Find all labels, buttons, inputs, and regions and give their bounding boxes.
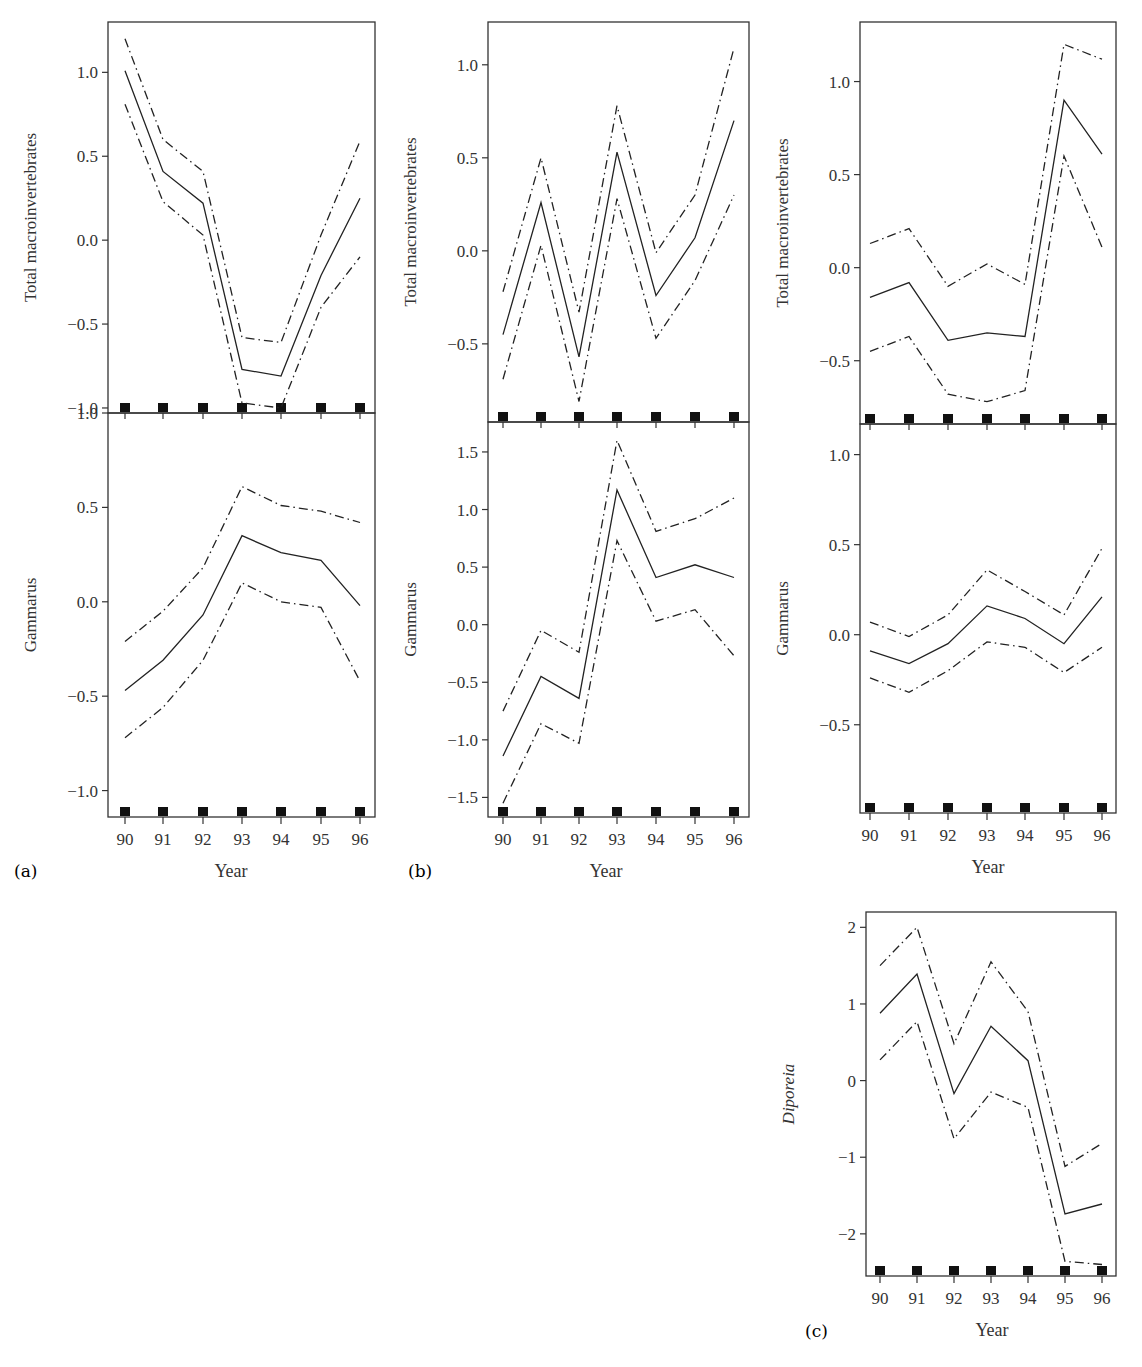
y-axis-label: Gammarus [21,578,40,653]
series-fit [125,71,360,376]
rug-mark [198,807,208,816]
y-axis-label: Total macroinvertebrates [773,138,792,307]
series-lower [870,642,1102,692]
rug-mark [574,412,584,421]
figure-canvas: −1.0−0.50.00.51.0Total macroinvertebrate… [0,0,1142,1367]
y-tick-label: 0.0 [77,231,98,250]
rug-mark [986,1266,996,1275]
panel-label-a: (a) [14,861,37,881]
panel-label-b: (b) [408,861,432,881]
rug-mark [1059,414,1069,423]
y-axis-label: Diporeia [779,1064,798,1126]
x-tick-label: 92 [940,826,957,845]
panel-a-top: −1.0−0.50.00.51.0Total macroinvertebrate… [21,22,375,418]
y-tick-label: 1.0 [457,56,478,75]
plot-frame [866,912,1116,1276]
rug-mark [690,807,700,816]
rug-mark [1097,1266,1107,1275]
x-tick-label: 91 [155,830,172,849]
y-tick-label: 0 [848,1072,857,1091]
rug-mark [949,1266,959,1275]
rug-mark [120,403,130,412]
rug-mark [1020,803,1030,812]
series-fit [503,490,734,756]
y-tick-label: −1.0 [67,782,98,801]
rug-mark [536,412,546,421]
panel-c-top: −0.50.00.51.0Total macroinvertebrates [773,22,1116,424]
rug-mark [1020,414,1030,423]
panel-b-top: −0.50.00.51.0Total macroinvertebrates [401,22,749,422]
y-tick-label: 0.5 [829,166,850,185]
x-tick-label: 92 [946,1289,963,1308]
series-fit [880,974,1102,1214]
x-tick-label: 94 [1020,1289,1038,1308]
y-tick-label: −0.5 [819,716,850,735]
y-tick-label: 0.5 [457,149,478,168]
rug-mark [651,412,661,421]
panel-c-extra: −2−1012Diporeia90919293949596Year [779,912,1116,1340]
rug-mark [729,807,739,816]
y-tick-label: 2 [848,918,857,937]
y-axis-label: Gammarus [773,581,792,656]
series-lower [125,583,360,738]
series-upper [880,927,1102,1166]
y-tick-label: 0.5 [77,498,98,517]
rug-mark [316,403,326,412]
y-tick-label: 1.5 [457,443,478,462]
rug-mark [904,803,914,812]
rug-mark [355,807,365,816]
rug-mark [237,807,247,816]
rug-mark [651,807,661,816]
y-tick-label: 0.0 [457,242,478,261]
x-tick-label: 93 [983,1289,1000,1308]
y-tick-label: 0.5 [829,536,850,555]
rug-mark [120,807,130,816]
y-tick-label: 0.0 [829,626,850,645]
rug-mark [1060,1266,1070,1275]
x-tick-label: 93 [234,830,251,849]
rug-mark [498,807,508,816]
rug-mark [355,403,365,412]
rug-mark [875,1266,885,1275]
rug-mark [1097,414,1107,423]
x-axis-label: Year [975,1320,1008,1340]
series-fit [870,100,1102,340]
rug-mark [982,803,992,812]
panel-a-bottom: −1.0−0.50.00.51.0Gammarus90919293949596Y… [21,404,375,881]
y-tick-label: −0.5 [67,315,98,334]
x-tick-label: 96 [726,830,743,849]
y-tick-label: 1 [848,995,857,1014]
plot-frame [108,22,375,413]
x-axis-label: Year [971,857,1004,877]
rug-mark [1097,803,1107,812]
series-lower [125,104,360,408]
rug-mark [904,414,914,423]
x-tick-label: 91 [909,1289,926,1308]
series-upper [870,548,1102,636]
rug-mark [237,403,247,412]
x-tick-label: 96 [352,830,369,849]
x-tick-label: 90 [495,830,512,849]
y-tick-label: −0.5 [819,352,850,371]
series-fit [870,597,1102,664]
x-tick-label: 96 [1094,1289,1111,1308]
plot-frame [108,413,375,817]
x-tick-label: 92 [195,830,212,849]
rug-mark [1059,803,1069,812]
plot-frame [860,22,1116,424]
series-upper [870,44,1102,286]
rug-mark [943,414,953,423]
x-axis-label: Year [214,861,247,881]
x-tick-label: 96 [1094,826,1111,845]
rug-mark [276,807,286,816]
x-tick-label: 94 [273,830,291,849]
rug-mark [690,412,700,421]
x-tick-label: 93 [609,830,626,849]
rug-mark [612,807,622,816]
x-axis-label: Year [589,861,622,881]
y-tick-label: 0.5 [77,147,98,166]
x-tick-label: 91 [901,826,918,845]
series-lower [503,541,734,804]
series-fit [503,121,734,357]
y-tick-label: −1.0 [447,731,478,750]
